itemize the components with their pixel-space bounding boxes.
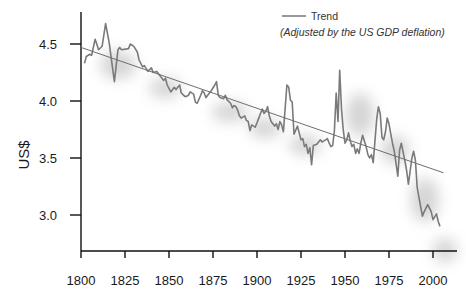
y-axis-label: US$ xyxy=(15,140,32,170)
x-tick-label: 1975 xyxy=(375,273,404,288)
x-ticks: 180018251850187519001925195019752000 xyxy=(67,251,448,288)
x-tick-label: 1875 xyxy=(199,273,228,288)
x-tick-label: 1825 xyxy=(111,273,140,288)
x-tick-label: 1950 xyxy=(331,273,360,288)
y-tick-label: 4.0 xyxy=(39,94,57,109)
price-trend-chart: 3.03.54.04.5 180018251850187519001925195… xyxy=(0,0,466,297)
deflation-note: (Adjusted by the US GDP deflation) xyxy=(280,26,445,38)
y-tick-label: 3.0 xyxy=(39,208,57,223)
x-tick-label: 1800 xyxy=(67,273,96,288)
x-tick-label: 1900 xyxy=(243,273,272,288)
trend-line xyxy=(81,47,444,172)
legend-trend-label: Trend xyxy=(311,10,338,22)
legend: Trend (Adjusted by the US GDP deflation) xyxy=(280,10,445,38)
x-tick-label: 1925 xyxy=(287,273,316,288)
x-tick-label: 2000 xyxy=(419,273,448,288)
y-tick-label: 4.5 xyxy=(39,37,57,52)
y-tick-label: 3.5 xyxy=(39,151,57,166)
x-tick-label: 1850 xyxy=(155,273,184,288)
y-ticks: 3.03.54.04.5 xyxy=(39,37,81,223)
